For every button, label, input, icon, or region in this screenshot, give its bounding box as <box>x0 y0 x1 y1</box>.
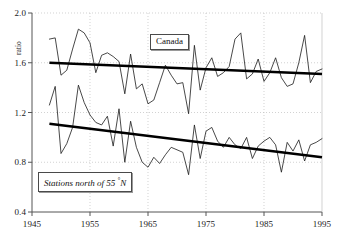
trend-line-canada <box>49 63 322 74</box>
annotation-stations-north: Stations north of 55 °N <box>38 172 132 192</box>
y-tick-marks <box>28 13 32 212</box>
y-tick-label-1-2: 1.2 <box>2 108 26 118</box>
x-tick-label-1965: 1965 <box>128 219 168 229</box>
chart-figure: 2.0 1.6 1.2 0.8 0.4 ratio 1945 1955 1965… <box>0 0 338 244</box>
x-tick-marks <box>32 212 322 216</box>
y-tick-label-2-0: 2.0 <box>2 8 26 18</box>
y-tick-label-1-6: 1.6 <box>2 58 26 68</box>
annotation-canada: Canada <box>150 34 189 50</box>
y-tick-label-0-8: 0.8 <box>2 157 26 167</box>
trend-line-stations <box>49 124 322 158</box>
x-tick-label-1985: 1985 <box>244 219 284 229</box>
x-tick-label-1975: 1975 <box>186 219 226 229</box>
x-tick-label-1945: 1945 <box>12 219 52 229</box>
annotation-stations-suffix: N <box>120 178 126 188</box>
annotation-stations-text: Stations north of 55 <box>44 178 118 188</box>
x-tick-label-1995: 1995 <box>302 219 338 229</box>
y-tick-label-0-4: 0.4 <box>2 207 26 217</box>
x-tick-label-1955: 1955 <box>70 219 110 229</box>
y-axis-title: ratio <box>14 41 23 55</box>
